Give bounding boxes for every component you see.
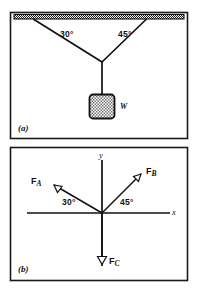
force-c-arrowhead-icon (98, 257, 107, 265)
figure-canvas (0, 0, 201, 293)
panel-a-frame (11, 13, 188, 139)
panel-a-angle-right-label: 45° (118, 30, 132, 39)
panel-a-angle-left-label: 30° (60, 30, 74, 39)
force-c-subscript: C (115, 259, 120, 268)
panel-a-group (11, 13, 188, 139)
panel-b-caption: (b) (18, 265, 29, 274)
weight-label: W (120, 103, 127, 111)
force-c-label: FC (109, 257, 120, 267)
panel-a-caption: (a) (18, 124, 29, 133)
y-axis-label: y (99, 151, 103, 160)
right-cord (102, 20, 146, 63)
force-a-subscript: A (37, 179, 42, 188)
panel-b-angle-left-label: 30° (62, 198, 76, 207)
force-a-arrowhead-icon (54, 185, 62, 193)
left-cord (34, 20, 102, 63)
force-a-label: FA (31, 177, 42, 187)
force-b-subscript: B (152, 169, 157, 178)
hanging-block-icon (90, 95, 115, 119)
x-axis-label: x (172, 208, 176, 217)
force-b-label: FB (146, 167, 157, 177)
panel-b-frame (11, 148, 188, 281)
panel-b-angle-right-label: 45° (120, 198, 134, 207)
panel-b-group (11, 148, 188, 281)
hatched-ceiling-icon (14, 15, 184, 20)
physics-figure: 30° 45° W (a) y x 30° 45° FA FB FC (b) (0, 0, 201, 293)
force-b-line (102, 174, 141, 213)
